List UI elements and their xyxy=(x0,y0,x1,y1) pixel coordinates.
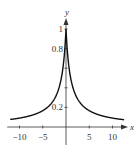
x-tick-label: 5 xyxy=(87,132,92,142)
x-axis-arrow-icon xyxy=(121,125,128,130)
x-tick-label: −10 xyxy=(12,132,27,142)
curve-line xyxy=(10,29,124,120)
y-axis-label: y xyxy=(64,7,69,17)
y-tick-label: 0.8 xyxy=(52,44,64,54)
x-axis-label: x xyxy=(129,122,134,132)
y-tick-label: 0.2 xyxy=(52,102,63,112)
y-tick-label: 1 xyxy=(59,24,64,34)
x-tick-label: −5 xyxy=(38,132,48,142)
axes xyxy=(7,18,128,145)
chart: −10−55100.20.81xy xyxy=(0,0,138,146)
axis-labels: −10−55100.20.81xy xyxy=(12,7,134,142)
x-tick-label: 10 xyxy=(108,132,118,142)
y-axis-arrow-icon xyxy=(64,18,69,25)
